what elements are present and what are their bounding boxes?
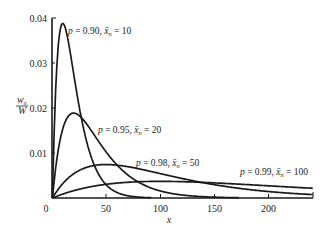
chart: 0.04 0.03 0.02 0.01 0 50 100 150 200 x w… [0, 0, 328, 231]
x-axis-label: x [166, 214, 172, 225]
y-tick-label: 0.01 [30, 148, 48, 159]
y-tick-label: 0.02 [30, 103, 48, 114]
y-tick-label: 0.03 [30, 58, 48, 69]
svg-text:W: W [18, 105, 28, 116]
y-tick-label: 0.04 [30, 13, 48, 24]
curve-label-p095: p = 0.95, x̄n = 20 [97, 125, 162, 136]
y-axis-label: wx W [16, 94, 28, 116]
x-tick-label: 150 [207, 203, 222, 214]
curve-label-p098: p = 0.98, x̄n = 50 [135, 158, 200, 169]
x-tick-label: 50 [101, 203, 111, 214]
curve-label-p099: p = 0.99, x̄n = 100 [239, 167, 308, 178]
x-tick-label: 100 [153, 203, 168, 214]
x-tick-label: 200 [261, 203, 276, 214]
curve-p09 [53, 23, 152, 198]
curve-label-p090: p = 0.90, x̄n = 10 [67, 26, 132, 37]
x-tick-label: 0 [44, 203, 49, 214]
